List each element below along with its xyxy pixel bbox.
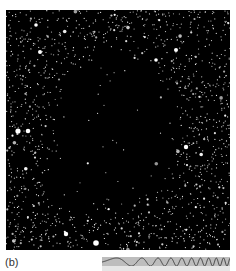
chirp-letter-row [102, 266, 230, 271]
panel-label: (b) [5, 256, 18, 268]
star-field [6, 10, 230, 250]
dark-nebula-image [6, 10, 230, 250]
